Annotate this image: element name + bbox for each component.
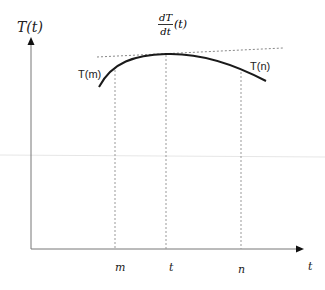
x-axis-arrowhead-icon [296,246,304,253]
x-axis-label: t [308,261,312,272]
derivative-fraction: dT dt [158,12,173,37]
faint-horizontal-line [0,155,325,157]
x-tick-label-m: m [115,262,125,273]
derivative-numerator: dT [158,12,173,23]
x-tick-label-t: t [169,262,173,273]
derivative-argument: (t) [174,18,187,31]
fraction-bar [158,24,173,25]
derivative-label: dT dt (t) [158,12,187,37]
curve-label-right: T(n) [250,61,270,72]
y-axis-label: T(t) [17,20,43,34]
derivative-denominator: dt [159,26,171,37]
curve-label-left: T(m) [78,69,101,80]
x-tick-label-n: n [238,264,245,275]
temperature-curve [99,54,266,87]
y-axis-arrowhead-icon [28,37,35,45]
diagram-canvas [0,0,325,290]
